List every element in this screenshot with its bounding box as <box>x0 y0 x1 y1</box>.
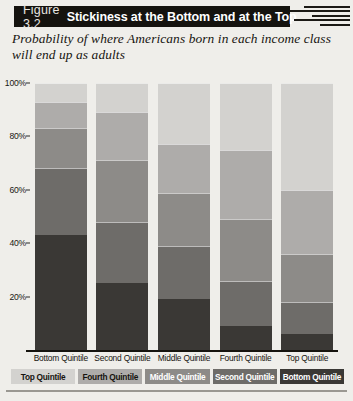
legend-item-fourth-quintile: Fourth Quintile <box>78 369 142 384</box>
bar-segment <box>158 144 210 192</box>
legend-item-middle-quintile: Middle Quintile <box>145 369 209 384</box>
bar-segment <box>220 219 272 280</box>
bar-segment <box>220 326 272 350</box>
bar-segment <box>96 160 148 221</box>
figure-title: Stickiness at the Bottom and at the Top <box>60 10 297 24</box>
figure-container: Figure 3.2 Stickiness at the Bottom and … <box>0 0 353 401</box>
figure-subtitle: Probability of where Americans born in e… <box>12 31 342 62</box>
y-axis-tick-label: 100% <box>5 78 26 88</box>
x-axis-label: Bottom Quintile <box>27 353 95 363</box>
y-axis-tick-label: 20% <box>9 292 26 302</box>
y-axis-tick-mark <box>26 243 30 244</box>
bar-segment <box>220 150 272 219</box>
y-axis-tick-mark <box>26 136 30 137</box>
bar-segment <box>35 168 87 235</box>
figure-number: Figure 3.2 <box>14 3 60 31</box>
legend-item-top-quintile: Top Quintile <box>11 369 75 384</box>
bar-segment <box>220 83 272 150</box>
x-axis-label: Fourth Quintile <box>212 353 280 363</box>
bar-middle-quintile <box>158 83 210 350</box>
bar-segment <box>281 254 333 302</box>
y-axis-tick-mark <box>26 189 30 190</box>
source-divider <box>6 390 347 392</box>
bar-segment <box>96 283 148 350</box>
bar-segment <box>158 193 210 246</box>
x-axis-baseline <box>26 350 338 352</box>
chart-legend: Top QuintileFourth QuintileMiddle Quinti… <box>11 369 344 384</box>
bar-segment <box>35 83 87 102</box>
y-axis: 20%40%60%80%100% <box>0 83 30 350</box>
bar-segment <box>96 83 148 112</box>
x-axis-label: Second Quintile <box>88 353 156 363</box>
x-axis-labels: Bottom QuintileSecond QuintileMiddle Qui… <box>30 353 338 366</box>
bar-segment <box>35 128 87 168</box>
bar-segment <box>96 112 148 160</box>
y-axis-tick-label: 60% <box>9 185 26 195</box>
y-axis-tick-label: 40% <box>9 238 26 248</box>
y-axis-tick-mark <box>26 296 30 297</box>
bar-top-quintile <box>281 83 333 350</box>
bar-segment <box>220 281 272 326</box>
y-axis-tick-mark <box>26 83 30 84</box>
bar-segment <box>281 190 333 254</box>
bar-segment <box>281 83 333 190</box>
bar-segment <box>158 83 210 144</box>
y-axis-tick-label: 80% <box>9 131 26 141</box>
x-axis-label: Middle Quintile <box>150 353 218 363</box>
legend-item-second-quintile: Second Quintile <box>213 369 277 384</box>
stacked-bar-plot-area <box>30 83 338 350</box>
bar-segment <box>35 235 87 350</box>
legend-item-bottom-quintile: Bottom Quintile <box>280 369 344 384</box>
source-note <box>30 393 330 400</box>
bar-segment <box>281 334 333 350</box>
bar-bottom-quintile <box>35 83 87 350</box>
bar-segment <box>158 246 210 299</box>
speed-streaks-decoration <box>288 4 350 30</box>
bar-segment <box>281 302 333 334</box>
bar-fourth-quintile <box>220 83 272 350</box>
figure-title-bar: Figure 3.2 Stickiness at the Bottom and … <box>14 6 290 27</box>
x-axis-label: Top Quintile <box>273 353 341 363</box>
bar-segment <box>158 299 210 350</box>
bar-second-quintile <box>96 83 148 350</box>
bar-segment <box>35 102 87 129</box>
bar-segment <box>96 222 148 283</box>
